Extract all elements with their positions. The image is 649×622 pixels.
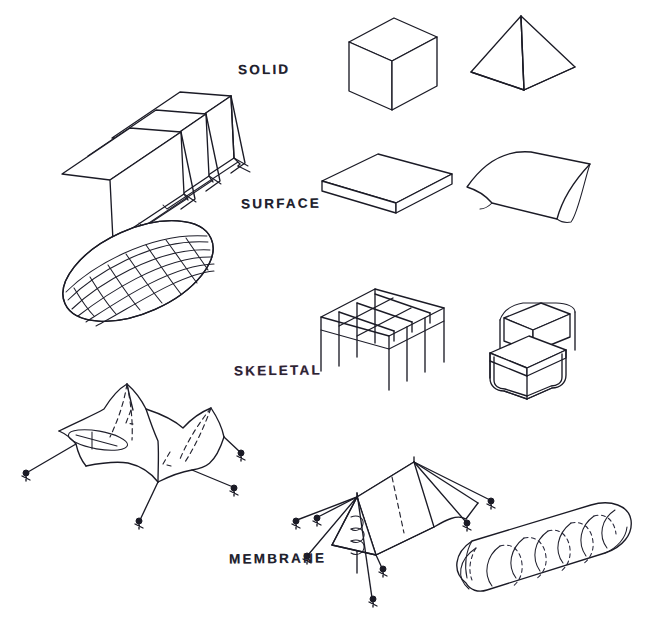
figure-tubular-chair	[490, 303, 575, 399]
figure-inflatable-tube	[457, 503, 631, 591]
drawing-layer	[0, 0, 649, 622]
anchor-peg	[487, 498, 495, 509]
figure-cube	[349, 18, 437, 110]
figure-curved-shell	[467, 152, 590, 223]
category-label-membrane: MEMBRANE	[229, 550, 326, 566]
figure-space-frame	[321, 289, 444, 390]
anchor-peg	[22, 470, 30, 481]
anchor-peg	[237, 450, 245, 461]
figure-tensile-canopy	[22, 384, 245, 529]
anchor-peg	[292, 518, 300, 529]
anchor-peg	[369, 596, 377, 607]
category-label-solid: SOLID	[238, 62, 290, 78]
figure-pyramid	[471, 16, 575, 90]
category-label-surface: SURFACE	[241, 196, 321, 212]
anchor-peg	[135, 518, 143, 529]
sketch-sheet: SOLID SURFACE SKELETAL MEMBRANE	[0, 0, 649, 622]
anchor-peg	[463, 520, 471, 531]
figure-flat-slab	[322, 154, 452, 213]
anchor-peg	[379, 566, 387, 577]
anchor-peg	[230, 485, 238, 496]
anchor-peg	[313, 515, 321, 526]
category-label-skeletal: SKELETAL	[234, 362, 322, 378]
